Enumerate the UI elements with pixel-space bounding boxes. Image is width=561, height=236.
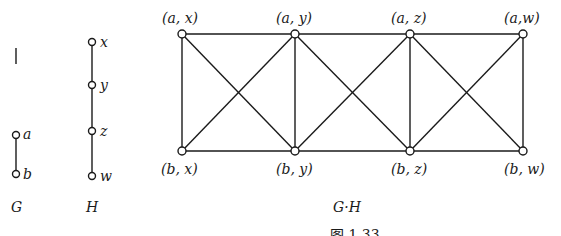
graph-g: a b G [11,48,32,215]
label-x: x [100,34,108,50]
graph-diagram: a b G x y z w H [0,0,561,236]
label-ay: (a, y) [276,10,312,26]
title-product: G·H [333,199,362,215]
figure-caption: 图 1.33 [330,227,380,236]
label-y: y [99,77,109,93]
label-ax: (a, x) [162,10,198,26]
node-ay [291,30,299,38]
label-bz: (b, z) [391,161,427,177]
node-z [89,128,96,135]
label-w: w [100,168,112,184]
label-az: (a, z) [391,10,427,26]
label-by: (b, y) [276,161,313,177]
node-x [89,39,96,46]
label-b: b [23,166,32,182]
node-bx [178,147,186,155]
node-w [89,173,96,180]
title-g: G [11,199,22,215]
node-a [13,132,20,139]
graph-product: (a, x) (a, y) (a, z) (a,w) (b, x) (b, y)… [161,10,545,215]
node-b [13,171,20,178]
label-z: z [99,123,108,139]
node-bz [406,147,414,155]
label-a: a [23,126,31,142]
label-aw: (a,w) [504,10,540,26]
node-by [291,147,299,155]
label-bw: (b, w) [504,161,545,177]
node-az [406,30,414,38]
node-bw [519,147,527,155]
label-bx: (b, x) [161,161,198,177]
node-y [89,82,96,89]
node-aw [519,30,527,38]
graph-h: x y z w H [85,34,112,215]
node-ax [178,30,186,38]
title-h: H [85,199,99,215]
